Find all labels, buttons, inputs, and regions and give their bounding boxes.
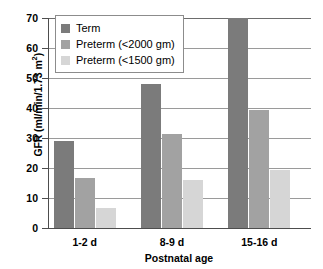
- y-axis-tick-label: 20: [5, 163, 38, 174]
- x-axis-tick-label: 1-2 d: [45, 236, 125, 248]
- legend-swatch-icon: [61, 24, 70, 33]
- y-axis-tick-label: 40: [5, 103, 38, 114]
- bar: [162, 134, 182, 229]
- legend-label: Preterm (<1500 gm): [76, 55, 175, 66]
- y-axis-tick-label: 60: [5, 43, 38, 54]
- x-axis-tick-label: 15-16 d: [219, 236, 299, 248]
- y-axis-tick: [42, 48, 49, 49]
- bar: [249, 110, 269, 229]
- y-axis-tick: [42, 78, 49, 79]
- bar: [54, 141, 74, 228]
- bar: [183, 180, 203, 228]
- gfr-bar-chart: GFR (ml/min/1.73 m2) 010203040506070 1-2…: [0, 0, 323, 269]
- legend-label: Preterm (<2000 gm): [76, 39, 175, 50]
- y-axis-tick: [42, 18, 49, 19]
- bar: [96, 208, 116, 228]
- y-axis-tick-label: 70: [5, 13, 38, 24]
- y-axis-tick: [42, 198, 49, 199]
- x-axis-title: Postnatal age: [48, 252, 310, 264]
- legend-swatch-icon: [61, 56, 70, 65]
- legend-label: Term: [76, 23, 100, 34]
- chart-legend: TermPreterm (<2000 gm)Preterm (<1500 gm): [55, 15, 184, 73]
- bar: [270, 170, 290, 229]
- x-axis-tick-label: 8-9 d: [132, 236, 212, 248]
- legend-item: Preterm (<2000 gm): [61, 36, 175, 52]
- y-axis-tick-label: 10: [5, 193, 38, 204]
- legend-item: Term: [61, 20, 175, 36]
- y-axis-tick-label: 0: [5, 223, 38, 234]
- y-axis-tick: [42, 138, 49, 139]
- y-axis-tick: [42, 108, 49, 109]
- bar: [228, 18, 248, 228]
- y-axis-title-superscript: 2: [30, 56, 39, 60]
- legend-item: Preterm (<1500 gm): [61, 52, 175, 68]
- y-axis-tick: [42, 168, 49, 169]
- bar: [75, 178, 95, 228]
- y-axis-tick-label: 50: [5, 73, 38, 84]
- bar: [141, 84, 161, 228]
- y-axis-tick-label: 30: [5, 133, 38, 144]
- legend-swatch-icon: [61, 40, 70, 49]
- y-axis-tick: [42, 228, 49, 229]
